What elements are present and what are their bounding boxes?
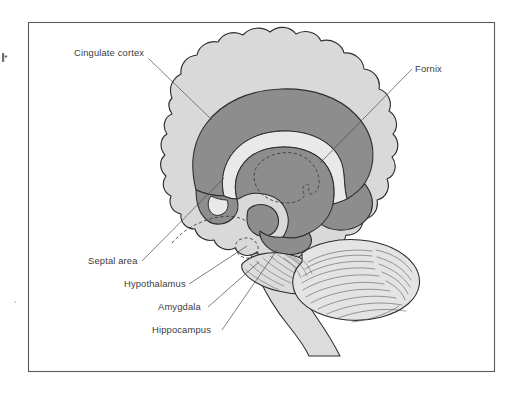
brain-diagram: Limbic system — midsagittal brain diagra… xyxy=(0,0,514,397)
label-fornix: Fornix xyxy=(415,63,442,74)
label-hypothalamus: Hypothalamus xyxy=(124,278,186,289)
label-amygdala: Amygdala xyxy=(158,301,202,312)
figure-root: Limbic system — midsagittal brain diagra… xyxy=(0,0,514,397)
label-cingulate-cortex: Cingulate cortex xyxy=(74,47,144,58)
label-hippocampus: Hippocampus xyxy=(152,324,211,335)
label-septal-area: Septal area xyxy=(88,255,138,266)
